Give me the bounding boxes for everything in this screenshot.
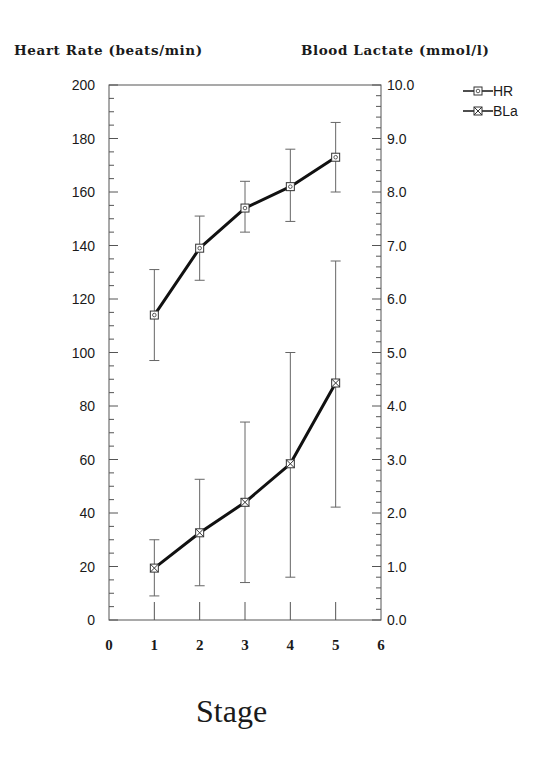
right-axis-tick-label: 1.0 xyxy=(387,560,406,574)
x-axis-tick-label: 1 xyxy=(144,638,164,652)
right-axis-tick-label: 6.0 xyxy=(387,292,406,306)
legend-item-bla: BLa xyxy=(463,103,518,119)
hr-marker-icon xyxy=(332,153,340,161)
x-axis-tick-label: 5 xyxy=(326,638,346,652)
hr-marker-icon xyxy=(196,244,204,252)
right-axis-tick-label: 3.0 xyxy=(387,453,406,467)
x-axis-title: Stage xyxy=(196,693,267,730)
hr-marker-icon xyxy=(150,311,158,319)
x-axis-tick-label: 0 xyxy=(99,638,119,652)
legend-label-hr: HR xyxy=(493,83,513,99)
left-axis-tick-label: 0 xyxy=(55,613,95,627)
left-axis-tick-label: 120 xyxy=(55,292,95,306)
legend-label-bla: BLa xyxy=(493,103,518,119)
left-axis-tick-label: 80 xyxy=(55,399,95,413)
right-axis-tick-label: 5.0 xyxy=(387,346,406,360)
x-axis-tick-label: 6 xyxy=(371,638,391,652)
right-axis-tick-label: 8.0 xyxy=(387,185,406,199)
left-axis-tick-label: 160 xyxy=(55,185,95,199)
left-axis-tick-label: 140 xyxy=(55,239,95,253)
hr-marker-icon xyxy=(463,83,493,99)
right-axis-tick-label: 9.0 xyxy=(387,132,406,146)
right-axis-tick-label: 7.0 xyxy=(387,239,406,253)
left-axis-tick-label: 40 xyxy=(55,506,95,520)
right-axis-tick-label: 2.0 xyxy=(387,506,406,520)
right-axis-tick-label: 0.0 xyxy=(387,613,406,627)
right-axis-tick-label: 4.0 xyxy=(387,399,406,413)
hr-marker-icon xyxy=(241,204,249,212)
bla-marker-icon xyxy=(463,103,493,119)
legend-item-hr: HR xyxy=(463,83,513,99)
x-axis-tick-label: 3 xyxy=(235,638,255,652)
right-axis-tick-label: 10.0 xyxy=(387,78,414,92)
left-axis-tick-label: 100 xyxy=(55,346,95,360)
left-axis-tick-label: 60 xyxy=(55,453,95,467)
left-axis-tick-label: 20 xyxy=(55,560,95,574)
x-axis-tick-label: 4 xyxy=(280,638,300,652)
left-axis-tick-label: 200 xyxy=(55,78,95,92)
x-axis-tick-label: 2 xyxy=(190,638,210,652)
left-axis-tick-label: 180 xyxy=(55,132,95,146)
hr-marker-icon xyxy=(286,183,294,191)
